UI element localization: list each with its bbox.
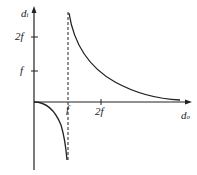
positive-branch-curve	[69, 13, 180, 100]
x-axis-label: do	[181, 110, 190, 121]
x-axis-arrow-icon	[185, 100, 192, 105]
y-tick-label-f: f	[20, 65, 23, 76]
y-axis-label: di	[21, 8, 28, 19]
y-tick-label-2f: 2f	[15, 31, 24, 42]
x-tick-label-2f: 2f	[95, 106, 104, 117]
lens-diagram: di 2f f f 2f do	[0, 0, 197, 175]
x-tick-label-f: f	[66, 104, 69, 115]
negative-branch-curve	[34, 102, 67, 160]
y-axis-arrow-icon	[32, 6, 37, 13]
diagram-graphics	[0, 0, 197, 175]
